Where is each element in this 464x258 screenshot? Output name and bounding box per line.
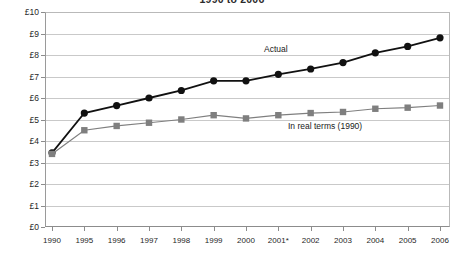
- series-annotation-actual: Actual: [264, 44, 288, 54]
- x-axis-tick-label: 1995: [75, 236, 93, 245]
- y-axis-tick-label: £7: [6, 72, 39, 82]
- x-axis-tick-mark: [343, 227, 344, 231]
- y-axis: £0£1£2£3£4£5£6£7£8£9£1019901995199619971…: [0, 0, 464, 258]
- x-axis-tick-label: 2005: [399, 236, 417, 245]
- y-axis-tick-label: £4: [6, 136, 39, 146]
- x-axis-tick-label: 1996: [108, 236, 126, 245]
- x-axis-tick-label: 1999: [205, 236, 223, 245]
- x-axis-tick-label: 1997: [140, 236, 158, 245]
- y-axis-tick-label: £2: [6, 179, 39, 189]
- y-axis-tick-mark: [41, 141, 45, 142]
- chart-container: 1990 to 2006 £0£1£2£3£4£5£6£7£8£9£101990…: [0, 0, 464, 258]
- y-axis-tick-mark: [41, 184, 45, 185]
- y-axis-tick-mark: [41, 120, 45, 121]
- x-axis-tick-label: 2002: [302, 236, 320, 245]
- x-axis-tick-mark: [84, 227, 85, 231]
- x-axis-tick-mark: [278, 227, 279, 231]
- y-axis-tick-mark: [41, 55, 45, 56]
- x-axis-tick-mark: [246, 227, 247, 231]
- y-axis-tick-label: £1: [6, 201, 39, 211]
- y-axis-tick-mark: [41, 163, 45, 164]
- x-axis-tick-label: 2004: [366, 236, 384, 245]
- x-axis-tick-mark: [149, 227, 150, 231]
- x-axis-tick-mark: [440, 227, 441, 231]
- y-axis-tick-mark: [41, 98, 45, 99]
- y-axis-tick-label: £8: [6, 50, 39, 60]
- x-axis-tick-mark: [375, 227, 376, 231]
- x-axis-tick-label: 2001*: [268, 236, 289, 245]
- x-axis-tick-label: 2000: [237, 236, 255, 245]
- x-axis-tick-mark: [408, 227, 409, 231]
- x-axis-tick-label: 1998: [172, 236, 190, 245]
- y-axis-tick-label: £0: [6, 222, 39, 232]
- y-axis-tick-mark: [41, 34, 45, 35]
- y-axis-tick-label: £5: [6, 115, 39, 125]
- series-annotation-real-terms: In real terms (1990): [288, 121, 362, 131]
- y-axis-tick-label: £3: [6, 158, 39, 168]
- y-axis-tick-mark: [41, 227, 45, 228]
- y-axis-tick-label: £6: [6, 93, 39, 103]
- y-axis-tick-mark: [41, 77, 45, 78]
- x-axis-tick-label: 2003: [334, 236, 352, 245]
- x-axis-tick-mark: [311, 227, 312, 231]
- x-axis-tick-mark: [52, 227, 53, 231]
- y-axis-tick-mark: [41, 12, 45, 13]
- x-axis-tick-label: 2006: [431, 236, 449, 245]
- y-axis-tick-label: £10: [6, 7, 39, 17]
- x-axis-tick-mark: [214, 227, 215, 231]
- x-axis-tick-label: 1990: [43, 236, 61, 245]
- y-axis-tick-label: £9: [6, 29, 39, 39]
- y-axis-tick-mark: [41, 206, 45, 207]
- x-axis-tick-mark: [117, 227, 118, 231]
- x-axis-tick-mark: [181, 227, 182, 231]
